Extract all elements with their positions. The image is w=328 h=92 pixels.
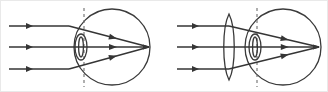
panel-uncorrected-eye (9, 8, 150, 87)
incoming-rays-right (177, 23, 229, 72)
focus-point-right (313, 44, 320, 49)
focus-point-left (143, 44, 150, 49)
arrowhead-converging-top-left (108, 34, 117, 40)
converging-rays-left (69, 26, 149, 69)
arrowhead-incoming-middle-right (192, 44, 199, 50)
arrowhead-incoming-bottom-left (26, 66, 33, 72)
incoming-rays-left (9, 23, 69, 72)
arrowhead-converging-middle-left (109, 44, 117, 50)
ray-diagram-canvas (1, 1, 328, 92)
converging-ray-bottom-right (229, 47, 319, 69)
arrowhead-incoming-middle-left (26, 44, 33, 50)
ray-diagram-figure (0, 0, 328, 92)
converging-rays-right (229, 26, 319, 69)
panel-corrected-eye-with-lens (177, 8, 321, 87)
converging-ray-top-right (229, 26, 319, 47)
arrowhead-incoming-top-right (192, 23, 199, 29)
arrowhead-incoming-top-left (26, 23, 33, 29)
converging-ray-bottom-left (69, 47, 149, 69)
arrowhead-converging-bottom-left (108, 55, 117, 61)
arrowhead-incoming-bottom-right (192, 66, 199, 72)
arrowhead-converging-middle-right (281, 44, 289, 50)
arrowhead-converging-bottom-right (280, 53, 288, 59)
